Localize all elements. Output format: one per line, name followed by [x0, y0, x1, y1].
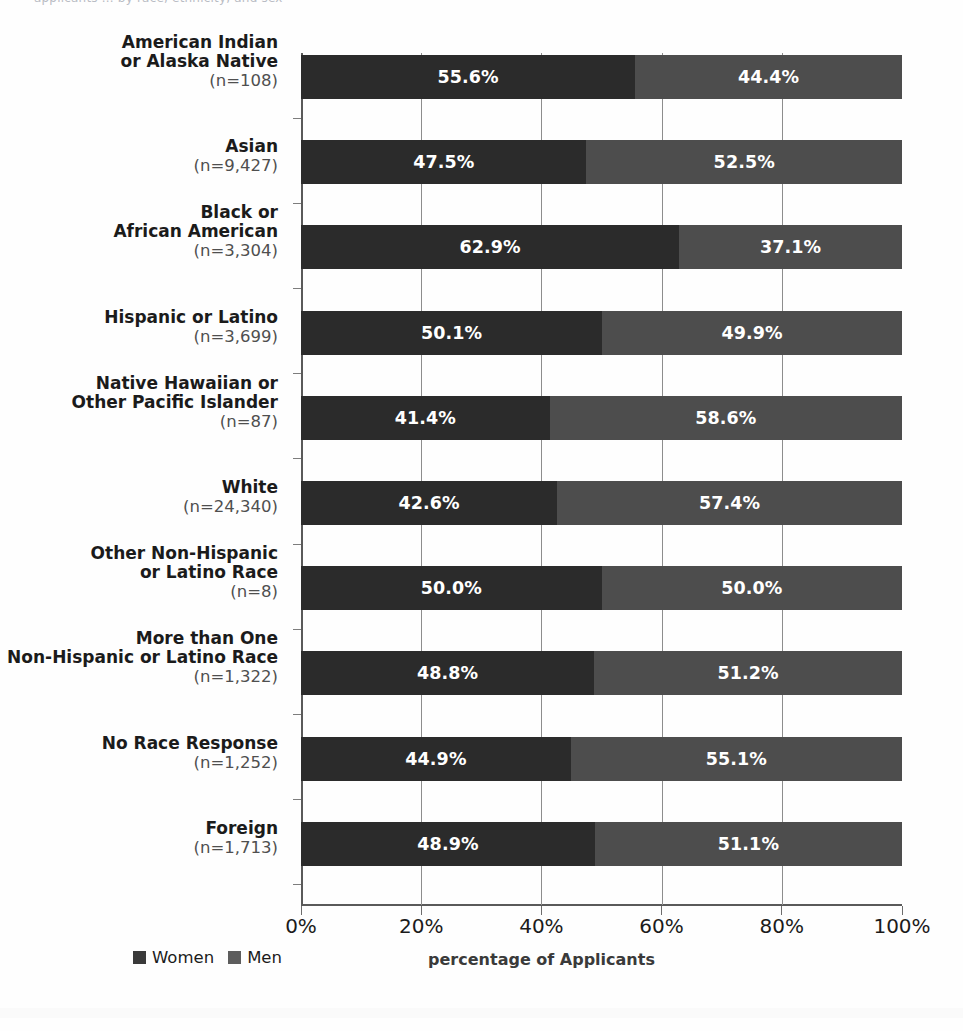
bar-row[interactable]: 41.4%58.6% [301, 396, 902, 440]
category-tick-mark [293, 799, 301, 800]
category-label: Other Non-Hispanic or Latino Race(n=8) [0, 544, 278, 602]
bar-row[interactable]: 55.6%44.4% [301, 55, 902, 99]
bar-segment-men[interactable]: 51.2% [594, 651, 902, 695]
category-tick-mark [293, 373, 301, 374]
x-tick-label: 40% [519, 914, 563, 938]
x-tick-label: 100% [873, 914, 930, 938]
category-tick-mark [293, 288, 301, 289]
bar-segment-men[interactable]: 51.1% [595, 822, 902, 866]
category-label-name: No Race Response [0, 734, 278, 753]
category-tick-mark [293, 458, 301, 459]
chart-page: applicants ... by race, ethnicity, and s… [0, 0, 963, 1031]
bar-row[interactable]: 48.9%51.1% [301, 822, 902, 866]
category-label: Foreign(n=1,713) [0, 819, 278, 858]
bar-row[interactable]: 50.1%49.9% [301, 311, 902, 355]
x-axis-tick-labels: 0%20%40%60%80%100% [301, 914, 902, 944]
bar-segment-women[interactable]: 42.6% [301, 481, 557, 525]
x-tick-label: 20% [399, 914, 443, 938]
category-label-count: (n=24,340) [0, 498, 278, 516]
category-label: Black or African American(n=3,304) [0, 203, 278, 261]
category-label-count: (n=1,713) [0, 839, 278, 857]
bar-row[interactable]: 42.6%57.4% [301, 481, 902, 525]
category-label-name: More than One Non-Hispanic or Latino Rac… [0, 629, 278, 667]
category-label-name: Native Hawaiian or Other Pacific Islande… [0, 374, 278, 412]
category-label: White(n=24,340) [0, 478, 278, 517]
x-tick-label: 0% [285, 914, 317, 938]
bar-segment-men[interactable]: 57.4% [557, 481, 902, 525]
bar-row[interactable]: 50.0%50.0% [301, 566, 902, 610]
category-axis-labels: American Indian or Alaska Native(n=108)A… [0, 53, 290, 905]
scan-artifact-band [0, 1008, 963, 1018]
bar-segment-men[interactable]: 49.9% [602, 311, 902, 355]
category-label-count: (n=108) [0, 72, 278, 90]
category-tick-mark [293, 629, 301, 630]
category-label: No Race Response(n=1,252) [0, 734, 278, 773]
category-label-count: (n=8) [0, 583, 278, 601]
category-label-count: (n=3,699) [0, 328, 278, 346]
x-axis-title: percentage of Applicants [0, 950, 963, 969]
bar-segment-women[interactable]: 62.9% [301, 225, 679, 269]
bar-segment-men[interactable]: 55.1% [571, 737, 902, 781]
category-label-name: Other Non-Hispanic or Latino Race [0, 544, 278, 582]
category-label-count: (n=3,304) [0, 242, 278, 260]
stacked-bar-chart: American Indian or Alaska Native(n=108)A… [0, 0, 963, 1031]
x-tick-label: 60% [639, 914, 683, 938]
category-label: American Indian or Alaska Native(n=108) [0, 33, 278, 91]
bar-segment-men[interactable]: 52.5% [586, 140, 902, 184]
category-label-name: American Indian or Alaska Native [0, 33, 278, 71]
bar-segment-women[interactable]: 50.0% [301, 566, 602, 610]
category-tick-mark [293, 203, 301, 204]
bar-segment-women[interactable]: 48.8% [301, 651, 594, 695]
bar-segment-women[interactable]: 50.1% [301, 311, 602, 355]
bar-segment-men[interactable]: 50.0% [602, 566, 903, 610]
category-label: Hispanic or Latino(n=3,699) [0, 308, 278, 347]
bar-segment-women[interactable]: 55.6% [301, 55, 635, 99]
category-label-count: (n=1,322) [0, 668, 278, 686]
plot-area: 55.6%44.4%47.5%52.5%62.9%37.1%50.1%49.9%… [301, 53, 902, 905]
category-label-count: (n=1,252) [0, 754, 278, 772]
category-tick-mark [293, 118, 301, 119]
category-label-count: (n=87) [0, 413, 278, 431]
category-label-name: White [0, 478, 278, 497]
category-tick-mark [293, 544, 301, 545]
category-label: More than One Non-Hispanic or Latino Rac… [0, 629, 278, 687]
bar-row[interactable]: 48.8%51.2% [301, 651, 902, 695]
category-label-name: Asian [0, 137, 278, 156]
bar-segment-men[interactable]: 58.6% [550, 396, 902, 440]
category-label: Native Hawaiian or Other Pacific Islande… [0, 374, 278, 432]
bar-segment-women[interactable]: 48.9% [301, 822, 595, 866]
category-label-name: Foreign [0, 819, 278, 838]
category-label: Asian(n=9,427) [0, 137, 278, 176]
bar-row[interactable]: 47.5%52.5% [301, 140, 902, 184]
bar-segment-men[interactable]: 37.1% [679, 225, 902, 269]
category-tick-mark [293, 884, 301, 885]
category-label-count: (n=9,427) [0, 157, 278, 175]
bar-row[interactable]: 44.9%55.1% [301, 737, 902, 781]
category-tick-mark [293, 714, 301, 715]
bar-segment-women[interactable]: 41.4% [301, 396, 550, 440]
bar-segment-women[interactable]: 44.9% [301, 737, 571, 781]
bar-segment-women[interactable]: 47.5% [301, 140, 586, 184]
category-label-name: Hispanic or Latino [0, 308, 278, 327]
bar-segment-men[interactable]: 44.4% [635, 55, 902, 99]
category-label-name: Black or African American [0, 203, 278, 241]
bar-row[interactable]: 62.9%37.1% [301, 225, 902, 269]
x-tick-label: 80% [760, 914, 804, 938]
bar-rows: 55.6%44.4%47.5%52.5%62.9%37.1%50.1%49.9%… [301, 53, 902, 905]
